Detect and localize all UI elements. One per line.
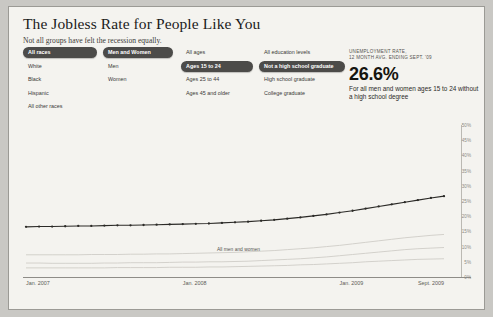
chart-y-tick-label: 20%	[457, 214, 471, 219]
stat-kicker-line-2: 12 MONTH AVG. ENDING SEPT. '09	[349, 55, 481, 61]
chart-baseline-axis	[23, 277, 471, 278]
filter-option-all-races[interactable]: All races›	[23, 47, 97, 58]
filter-option-black[interactable]: Black	[23, 74, 97, 85]
filter-option-label: Ages 45 and older	[186, 90, 230, 96]
filter-option-college-graduate[interactable]: College graduate	[259, 88, 345, 99]
chart-data-point	[391, 203, 393, 205]
page-subtitle: Not all groups have felt the recession e…	[23, 36, 474, 45]
chart-y-tick-label: 0%	[457, 275, 471, 280]
filter-option-men[interactable]: Men	[103, 61, 173, 72]
chart-data-point	[103, 224, 105, 226]
chart-data-point	[430, 197, 432, 199]
filter-option-label: Men and Women	[108, 49, 151, 55]
filter-option-label: All races	[28, 49, 50, 55]
page-title: The Jobless Rate for People Like You	[23, 15, 474, 33]
filter-option-all-other-races[interactable]: All other races	[23, 101, 97, 112]
chart-x-tick-label: Jan. 2007	[26, 280, 50, 286]
chart-plot-area	[23, 125, 471, 277]
chart-data-point	[195, 223, 197, 225]
chart-y-tick-label: 25%	[457, 199, 471, 204]
chart-data-point	[325, 213, 327, 215]
chart-x-tick-label: Jan. 2009	[340, 280, 364, 286]
filter-option-label: All other races	[28, 103, 62, 109]
chart-data-point	[404, 201, 406, 203]
chart-data-point	[260, 220, 262, 222]
unemployment-line-chart: All men and women 50%45%40%35%30%25%20%1…	[23, 125, 471, 293]
chart-data-point	[364, 207, 366, 209]
chart-data-point	[77, 225, 79, 227]
chart-data-point	[208, 222, 210, 224]
chart-data-point	[299, 216, 301, 218]
filter-option-label: All education levels	[264, 49, 310, 55]
filter-option-not-a-high-school-graduate[interactable]: Not a high school graduate›	[259, 61, 345, 72]
stat-value: 26.6%	[349, 64, 481, 84]
chart-data-point	[38, 225, 40, 227]
chart-data-point	[51, 225, 53, 227]
chart-data-point	[90, 225, 92, 227]
infographic-panel: The Jobless Rate for People Like You Not…	[8, 6, 485, 310]
filter-option-label: White	[28, 63, 42, 69]
filter-option-white[interactable]: White	[23, 61, 97, 72]
chart-y-tick-label: 45%	[457, 138, 471, 143]
chart-y-tick-label: 30%	[457, 183, 471, 188]
chart-data-point	[247, 221, 249, 223]
chart-data-point	[129, 224, 131, 226]
filter-option-label: College graduate	[264, 90, 305, 96]
chart-data-point	[182, 223, 184, 225]
filter-option-label: Black	[28, 76, 41, 82]
chart-data-point	[64, 225, 66, 227]
filter-option-label: Women	[108, 76, 126, 82]
chart-y-tick-label: 50%	[457, 123, 471, 128]
header: The Jobless Rate for People Like You Not…	[23, 15, 474, 45]
chart-data-point	[116, 224, 118, 226]
filter-option-high-school-graduate[interactable]: High school graduate	[259, 74, 345, 85]
filter-option-label: Ages 15 to 24	[186, 63, 221, 69]
race-filter-column: All races›WhiteBlackHispanicAll other ra…	[23, 47, 97, 115]
filter-option-hispanic[interactable]: Hispanic	[23, 88, 97, 99]
chart-data-point	[25, 226, 27, 228]
age-filter-column: All agesAges 15 to 24›Ages 25 to 44Ages …	[181, 47, 253, 101]
chart-data-point	[443, 195, 445, 197]
gender-filter-column: Men and Women›MenWomen	[103, 47, 173, 88]
chart-data-point	[378, 205, 380, 207]
chart-y-tick-label: 35%	[457, 168, 471, 173]
chart-data-point	[142, 224, 144, 226]
chart-data-point	[417, 199, 419, 201]
filter-option-all-ages[interactable]: All ages	[181, 47, 253, 58]
chart-data-point	[169, 223, 171, 225]
filter-option-ages-45-and-older[interactable]: Ages 45 and older	[181, 88, 253, 99]
filter-option-label: Ages 25 to 44	[186, 76, 219, 82]
chart-x-tick-label: Sept. 2009	[418, 280, 444, 286]
filter-option-women[interactable]: Women	[103, 74, 173, 85]
chart-y-tick-label: 5%	[457, 259, 471, 264]
series-annotation-all-men-and-women: All men and women	[217, 247, 260, 252]
stat-description: For all men and women ages 15 to 24 with…	[349, 85, 481, 101]
chart-x-tick-label: Jan. 2008	[183, 280, 207, 286]
chart-data-point	[155, 224, 157, 226]
filter-option-label: High school graduate	[264, 76, 315, 82]
filter-option-label: Hispanic	[28, 90, 49, 96]
filter-option-label: All ages	[186, 49, 205, 55]
filter-option-label: Not a high school graduate	[264, 63, 333, 69]
chart-data-point	[338, 211, 340, 213]
chart-y-tick-label: 15%	[457, 229, 471, 234]
chart-data-point	[273, 219, 275, 221]
chart-data-point	[312, 215, 314, 217]
chart-data-point	[286, 217, 288, 219]
stat-readout: UNEMPLOYMENT RATE, 12 MONTH AVG. ENDING …	[349, 49, 481, 101]
chart-data-point	[351, 210, 353, 212]
filter-option-ages-25-to-44[interactable]: Ages 25 to 44	[181, 74, 253, 85]
chart-data-point	[234, 221, 236, 223]
filter-option-label: Men	[108, 63, 119, 69]
education-filter-column: All education levelsNot a high school gr…	[259, 47, 345, 101]
filter-option-men-and-women[interactable]: Men and Women›	[103, 47, 173, 58]
chart-y-tick-label: 10%	[457, 244, 471, 249]
chart-y-tick-label: 40%	[457, 153, 471, 158]
filter-option-all-education-levels[interactable]: All education levels	[259, 47, 345, 58]
chart-data-point	[221, 222, 223, 224]
filter-option-ages-15-to-24[interactable]: Ages 15 to 24›	[181, 61, 253, 72]
chart-svg	[23, 125, 471, 277]
